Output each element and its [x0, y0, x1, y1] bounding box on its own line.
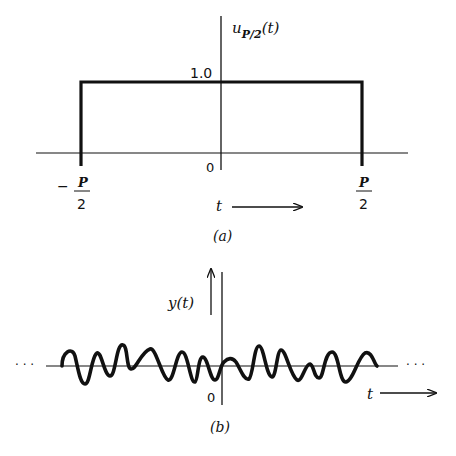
b-caption: (b): [210, 419, 230, 435]
a-right-edge-numerator: P: [358, 175, 370, 190]
b-y-axis-label: y(t): [167, 294, 194, 312]
a-y-axis-label: uP/2(t): [232, 19, 280, 41]
a-level-label: 1.0: [190, 65, 212, 81]
a-right-edge-denominator: 2: [359, 196, 368, 212]
b-x-axis-label: t: [367, 385, 374, 403]
figure-a-rectangular-pulse: uP/2(t) 1.0 0 − P 2 P 2 t (a): [36, 16, 408, 244]
b-continuation-right: · · ·: [406, 358, 425, 372]
a-origin-label: 0: [206, 160, 214, 175]
b-origin-label: 0: [207, 390, 215, 405]
figure-b-random-signal: · · · · · · y(t) 0 t (b): [15, 269, 436, 435]
b-continuation-left: · · ·: [15, 358, 34, 372]
b-signal-waveform: [62, 345, 377, 384]
figure-canvas: uP/2(t) 1.0 0 − P 2 P 2 t (a) · · · · · …: [0, 0, 456, 456]
a-caption: (a): [213, 228, 232, 244]
a-left-edge-denominator: 2: [77, 196, 86, 212]
a-left-edge-numerator: P: [77, 175, 89, 190]
a-left-edge-sign: −: [57, 178, 69, 194]
a-x-axis-label: t: [216, 197, 223, 215]
